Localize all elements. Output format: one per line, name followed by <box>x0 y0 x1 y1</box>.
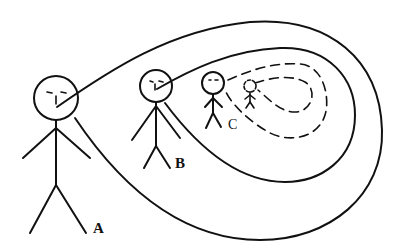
loop-a <box>57 21 382 240</box>
figure-d <box>244 80 256 108</box>
loop-d <box>255 77 312 112</box>
figure-c <box>202 72 224 128</box>
label-c: C <box>228 117 237 132</box>
label-b: B <box>175 155 185 171</box>
figure-b <box>132 70 180 168</box>
loop-c <box>226 64 327 138</box>
label-a: A <box>93 220 104 236</box>
nested-speech-diagram: A B C <box>0 0 402 252</box>
figure-a <box>23 76 90 233</box>
